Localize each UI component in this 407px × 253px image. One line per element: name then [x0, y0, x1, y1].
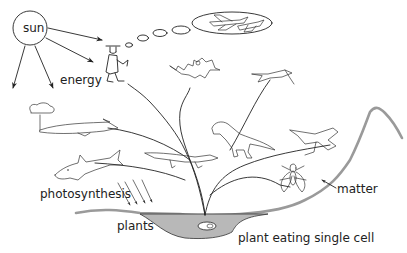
photosynthesis-label: photosynthesis [40, 188, 131, 200]
lizard-reptile-figure [145, 153, 218, 168]
dream-bubble [192, 12, 272, 34]
evolution-diagram: sun energy photosynthesis plants plant e… [0, 0, 407, 253]
matter-label: matter [337, 183, 378, 195]
energy-label: energy [60, 74, 102, 86]
whale-figure [30, 103, 118, 136]
sun-arrow-down-left [13, 46, 25, 88]
plants-label: plants [117, 220, 154, 232]
bat-figure [170, 58, 220, 78]
thinking-person-figure [106, 46, 128, 82]
single-cell-label: plant eating single cell [238, 232, 374, 244]
fly-insect-figure [280, 164, 306, 192]
sun-arrow-right [48, 28, 102, 40]
airplane-icon [210, 15, 264, 32]
theropod-dinosaur-figure [212, 122, 275, 158]
sun-arrow-down-right [35, 46, 53, 88]
thought-bubbles [126, 12, 273, 47]
small-tree-figure [30, 103, 54, 130]
shark-figure [55, 150, 123, 180]
sun-arrow-person [46, 38, 93, 62]
sun-label: sun [23, 22, 44, 34]
diagram-canvas [0, 0, 407, 253]
pterosaur-figure [252, 70, 294, 84]
